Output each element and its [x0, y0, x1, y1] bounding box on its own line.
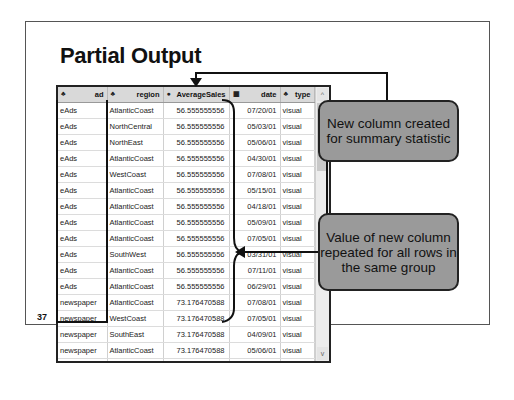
data-grid[interactable]: ♣ad ♣region ●AverageSales ▦date ♣type eA…: [56, 85, 331, 363]
table-row[interactable]: eAdsWestCoast56.55555555607/08/01visual: [58, 167, 314, 183]
cell-region[interactable]: NorthCentral: [107, 119, 163, 135]
table-row[interactable]: eAdsAtlanticCoast56.55555555606/29/01vis…: [58, 279, 314, 295]
cell-region[interactable]: AtlanticCoast: [107, 279, 163, 295]
page-number: 37: [37, 312, 47, 322]
table-row[interactable]: eAdsAtlanticCoast56.55555555605/09/01vis…: [58, 215, 314, 231]
string-icon: ♣: [284, 90, 289, 97]
cell-type[interactable]: visual: [280, 199, 314, 215]
cell-ad[interactable]: eAds: [58, 135, 107, 151]
cell-type[interactable]: visual: [280, 279, 314, 295]
cell-type[interactable]: visual: [280, 215, 314, 231]
table-row[interactable]: eAdsAtlanticCoast56.55555555607/05/01vis…: [58, 231, 314, 247]
cell-ad[interactable]: newspaper: [58, 359, 107, 364]
cell-region[interactable]: AtlanticCoast: [107, 199, 163, 215]
cell-ad[interactable]: newspaper: [58, 311, 107, 327]
cell-type[interactable]: visual: [280, 247, 314, 263]
table-row[interactable]: eAdsAtlanticCoast56.55555555607/20/01vis…: [58, 103, 314, 119]
slide-title: Partial Output: [60, 43, 201, 69]
callout-repeated-value: Value of new column repeated for all row…: [318, 213, 459, 291]
column-header-region[interactable]: ♣region: [107, 87, 163, 103]
cell-ad[interactable]: eAds: [58, 151, 107, 167]
numeric-icon: ●: [167, 90, 171, 97]
cell-date[interactable]: 05/06/01: [229, 343, 280, 359]
cell-ad[interactable]: eAds: [58, 199, 107, 215]
table-row[interactable]: eAdsAtlanticCoast56.55555555607/11/01vis…: [58, 263, 314, 279]
cell-average-sales[interactable]: 73.176470588: [163, 343, 229, 359]
cell-type[interactable]: visual: [280, 119, 314, 135]
cell-type[interactable]: visual: [280, 167, 314, 183]
cell-type[interactable]: visual: [280, 103, 314, 119]
table-row[interactable]: eAdsNorthEast56.55555555605/06/01visual: [58, 135, 314, 151]
cell-ad[interactable]: newspaper: [58, 327, 107, 343]
table-row[interactable]: newspaperAtlanticCoast73.17647058807/08/…: [58, 295, 314, 311]
cell-region[interactable]: SouthWest: [107, 247, 163, 263]
cell-region[interactable]: WestCoast: [107, 311, 163, 327]
callout-new-column: New column created for summary statistic: [318, 100, 459, 162]
cell-type[interactable]: visual: [280, 263, 314, 279]
string-icon: ♣: [61, 90, 66, 97]
cell-ad[interactable]: eAds: [58, 167, 107, 183]
cell-type[interactable]: visual: [280, 311, 314, 327]
cell-average-sales[interactable]: 73.176470588: [163, 359, 229, 364]
arrow-left-icon: [235, 246, 245, 258]
cell-type[interactable]: visual: [280, 295, 314, 311]
column-header-type[interactable]: ♣type: [280, 87, 314, 103]
cell-ad[interactable]: eAds: [58, 279, 107, 295]
cell-region[interactable]: NorthEast: [107, 135, 163, 151]
arrow-down-icon: [190, 78, 202, 87]
column-header-ad[interactable]: ♣ad: [58, 87, 107, 103]
arrow-line-left: [242, 251, 320, 253]
table-row[interactable]: eAdsAtlanticCoast56.55555555604/30/01vis…: [58, 151, 314, 167]
string-icon: ♣: [111, 90, 116, 97]
cell-type[interactable]: visual: [280, 151, 314, 167]
cell-date[interactable]: 07/02/01: [229, 359, 280, 364]
cell-type[interactable]: visual: [280, 359, 314, 364]
cell-ad[interactable]: eAds: [58, 183, 107, 199]
cell-ad[interactable]: eAds: [58, 103, 107, 119]
table-row[interactable]: eAdsNorthCentral56.55555555605/03/01visu…: [58, 119, 314, 135]
cell-ad[interactable]: eAds: [58, 231, 107, 247]
cell-region[interactable]: AtlanticCoast: [107, 343, 163, 359]
cell-ad[interactable]: eAds: [58, 119, 107, 135]
scroll-down-icon[interactable]: v: [317, 347, 328, 360]
cell-type[interactable]: visual: [280, 135, 314, 151]
cell-ad[interactable]: eAds: [58, 215, 107, 231]
cell-region[interactable]: AtlanticCoast: [107, 103, 163, 119]
cell-region[interactable]: AtlanticCoast: [107, 231, 163, 247]
data-table: ♣ad ♣region ●AverageSales ▦date ♣type eA…: [58, 87, 315, 363]
cell-type[interactable]: visual: [280, 343, 314, 359]
cell-ad[interactable]: newspaper: [58, 343, 107, 359]
cell-region[interactable]: AtlanticCoast: [107, 183, 163, 199]
cell-ad[interactable]: eAds: [58, 247, 107, 263]
date-icon: ▦: [233, 90, 240, 98]
cell-region[interactable]: AtlanticCoast: [107, 359, 163, 364]
arrow-line-right: [386, 72, 388, 100]
cell-region[interactable]: SouthEast: [107, 327, 163, 343]
table-header-row: ♣ad ♣region ●AverageSales ▦date ♣type: [58, 87, 314, 103]
cell-ad[interactable]: newspaper: [58, 295, 107, 311]
cell-type[interactable]: visual: [280, 327, 314, 343]
table-row[interactable]: newspaperAtlanticCoast73.17647058805/06/…: [58, 343, 314, 359]
table-row[interactable]: eAdsAtlanticCoast56.55555555605/15/01vis…: [58, 183, 314, 199]
cell-average-sales[interactable]: 73.176470588: [163, 327, 229, 343]
cell-region[interactable]: AtlanticCoast: [107, 295, 163, 311]
cell-region[interactable]: AtlanticCoast: [107, 151, 163, 167]
table-row[interactable]: eAdsSouthWest56.55555555603/31/01visual: [58, 247, 314, 263]
cell-type[interactable]: visual: [280, 183, 314, 199]
curly-brace-icon: [220, 98, 244, 328]
cell-region[interactable]: AtlanticCoast: [107, 215, 163, 231]
arrow-line-top: [195, 72, 388, 74]
cell-ad[interactable]: eAds: [58, 263, 107, 279]
table-row[interactable]: eAdsAtlanticCoast56.55555555604/18/01vis…: [58, 199, 314, 215]
cell-region[interactable]: WestCoast: [107, 167, 163, 183]
table-row[interactable]: newspaperWestCoast73.17647058807/05/01vi…: [58, 311, 314, 327]
table-row[interactable]: newspaperSouthEast73.17647058804/09/01vi…: [58, 327, 314, 343]
cell-region[interactable]: AtlanticCoast: [107, 263, 163, 279]
cell-type[interactable]: visual: [280, 231, 314, 247]
table-row[interactable]: newspaperAtlanticCoast73.17647058807/02/…: [58, 359, 314, 364]
cell-date[interactable]: 04/09/01: [229, 327, 280, 343]
